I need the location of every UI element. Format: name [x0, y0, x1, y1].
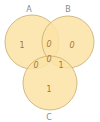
- set-label-b: B: [65, 5, 71, 14]
- set-label-a: A: [26, 5, 32, 14]
- circle-c: [23, 56, 77, 110]
- region-a-only: 1: [19, 41, 24, 50]
- region-c-only: 1: [46, 85, 51, 94]
- region-b-and-c: 1: [58, 61, 63, 70]
- region-a-and-b-and-c: 0: [46, 55, 51, 64]
- region-a-and-b: 0: [46, 40, 51, 49]
- region-a-and-c: 0: [33, 61, 38, 70]
- region-b-only: 0: [69, 41, 74, 50]
- set-label-c: C: [46, 113, 52, 122]
- venn-diagram: A B C 1 0 1 0 0 1 0: [0, 0, 100, 122]
